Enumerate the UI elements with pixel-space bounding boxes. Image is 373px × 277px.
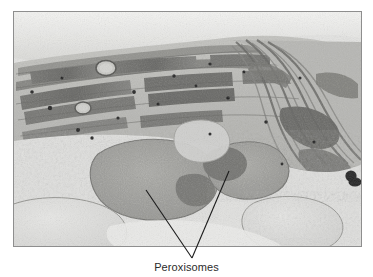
figure-root: Peroxisomes — [0, 0, 373, 277]
micrograph-frame — [13, 11, 362, 247]
micrograph-image — [14, 12, 361, 246]
caption-label: Peroxisomes — [0, 261, 373, 274]
